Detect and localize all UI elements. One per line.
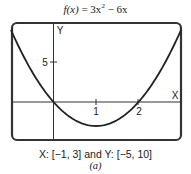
figure-sublabel: (a)	[0, 160, 191, 171]
y-tick-label-5: 5	[42, 57, 48, 68]
x-tick-label-1: 1	[93, 106, 99, 117]
window-caption: X: [−1, 3] and Y: [−5, 10]	[0, 148, 191, 160]
y-axis-label: Y	[57, 25, 64, 36]
x-tick-label-2: 2	[136, 106, 142, 117]
x-axis-label: X	[172, 90, 179, 101]
